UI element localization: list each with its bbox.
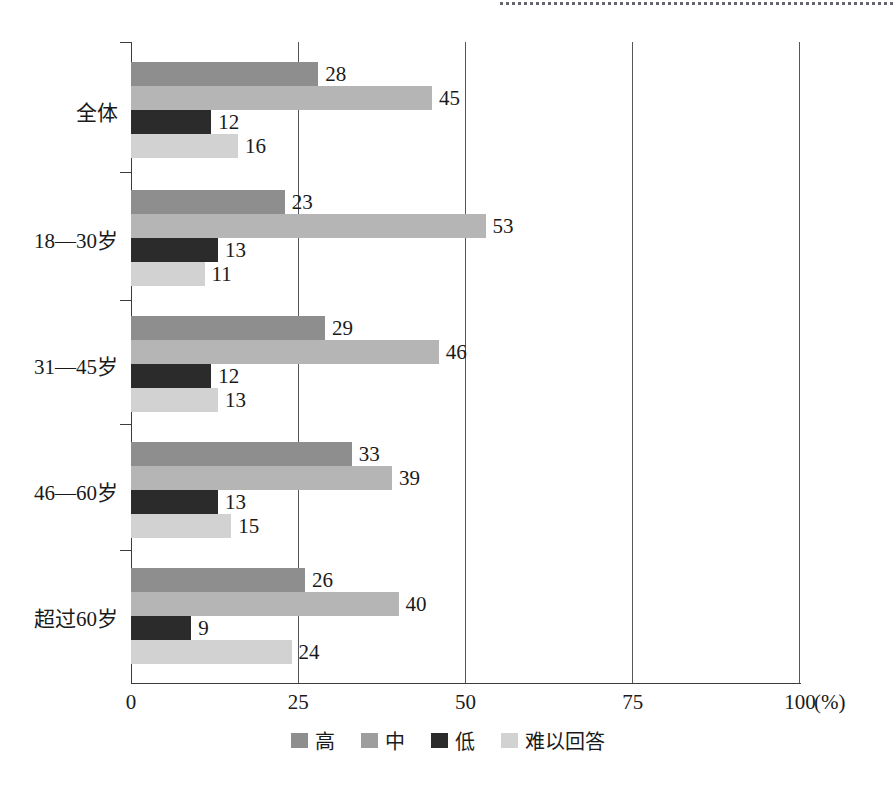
bar-value-label: 33 [359,442,380,466]
bar-18—30岁-中 [131,214,486,238]
bar-value-label: 13 [225,238,246,262]
bar-value-label: 12 [218,110,239,134]
bar-value-label: 15 [238,514,259,538]
bar-46—60岁-高 [131,442,352,466]
bar-value-label: 13 [225,388,246,412]
bar-value-label: 13 [225,490,246,514]
bar-value-label: 11 [212,262,232,286]
bar-value-label: 39 [399,466,420,490]
bar-value-label: 26 [312,568,333,592]
x-tick-label-75: 75 [622,690,643,715]
bar-value-label: 28 [325,62,346,86]
bar-超过60岁-高 [131,568,305,592]
bar-value-label: 16 [245,134,266,158]
bar-value-label: 29 [332,316,353,340]
grouped-bar-chart: 284512162353131129461213333913152640924 … [0,0,896,786]
bar-46—60岁-低 [131,490,218,514]
group-tick-top [120,42,131,43]
legend-label: 高 [315,726,335,755]
legend-swatch-icon [501,733,518,748]
gridline-100 [799,42,800,683]
bar-全体-低 [131,110,211,134]
legend-label: 低 [455,726,475,755]
x-tick-label-100: 100 [784,690,816,715]
bar-value-label: 45 [439,86,460,110]
category-axis: 全体18—30岁31—45岁46—60岁超过60岁 [0,0,118,786]
bar-超过60岁-中 [131,592,399,616]
category-label-46—60岁: 46—60岁 [0,476,118,506]
bar-value-label: 46 [446,340,467,364]
gridline-75 [632,42,633,683]
legend-item-低[interactable]: 低 [431,726,475,755]
group-tick-1 [120,172,131,173]
x-tick-label-50: 50 [455,690,476,715]
bar-46—60岁-难以回答 [131,514,231,538]
x-tick-label-25: 25 [288,690,309,715]
legend-item-难以回答[interactable]: 难以回答 [501,726,605,755]
legend-swatch-icon [361,733,378,748]
x-tick-label-0: 0 [126,690,137,715]
legend-label: 难以回答 [525,726,605,755]
bar-31—45岁-低 [131,364,211,388]
bar-31—45岁-中 [131,340,439,364]
group-tick-2 [120,300,131,301]
bar-18—30岁-低 [131,238,218,262]
bar-全体-中 [131,86,432,110]
group-tick-4 [120,550,131,551]
legend-swatch-icon [431,733,448,748]
bar-value-label: 23 [292,190,313,214]
bar-31—45岁-高 [131,316,325,340]
bar-全体-高 [131,62,318,86]
chart-legend: 高中低难以回答 [0,726,896,755]
bar-31—45岁-难以回答 [131,388,218,412]
bar-18—30岁-高 [131,190,285,214]
bar-46—60岁-中 [131,466,392,490]
category-label-超过60岁: 超过60岁 [0,602,118,632]
bar-value-label: 24 [299,640,320,664]
bar-value-label: 9 [198,616,209,640]
x-axis-line [131,683,801,684]
legend-swatch-icon [291,733,308,748]
legend-label: 中 [385,726,405,755]
axis-unit-label: (%) [814,690,845,715]
group-tick-3 [120,424,131,425]
category-label-全体: 全体 [0,96,118,126]
bar-全体-难以回答 [131,134,238,158]
legend-item-高[interactable]: 高 [291,726,335,755]
bar-value-label: 40 [406,592,427,616]
legend-item-中[interactable]: 中 [361,726,405,755]
category-label-31—45岁: 31—45岁 [0,350,118,380]
bar-18—30岁-难以回答 [131,262,205,286]
bar-value-label: 53 [493,214,514,238]
bar-超过60岁-低 [131,616,191,640]
category-label-18—30岁: 18—30岁 [0,224,118,254]
bar-超过60岁-难以回答 [131,640,292,664]
bar-value-label: 12 [218,364,239,388]
